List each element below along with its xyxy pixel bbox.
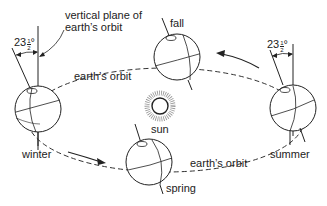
- earth-summer-icon: [270, 44, 316, 145]
- arrow-summer-to-fall-icon: [216, 50, 259, 68]
- orbit-label-top: earth’s orbit: [74, 70, 131, 82]
- orbit-label-bottom: earth’s orbit: [190, 157, 247, 169]
- winter-label: winter: [22, 148, 51, 160]
- sun-icon: [147, 93, 173, 119]
- orbit-diagram: vertical plane of earth’s orbit 2312° 23…: [0, 0, 327, 206]
- spring-label: spring: [166, 182, 196, 194]
- tilt-angle-label-left: 2312°: [14, 36, 35, 51]
- summer-label: summer: [270, 148, 310, 160]
- sun-label: sun: [151, 123, 169, 135]
- vertical-plane-label: vertical plane of earth’s orbit: [65, 9, 142, 33]
- fall-label: fall: [170, 17, 184, 29]
- tilt-angle-label-right: 2312°: [267, 38, 288, 53]
- diagram-canvas: [0, 0, 327, 206]
